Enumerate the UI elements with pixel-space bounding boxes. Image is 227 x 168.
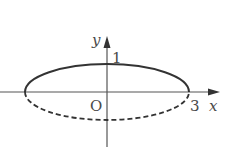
- x-axis: [0, 89, 220, 96]
- y-axis-label: y: [91, 31, 101, 49]
- y-axis-arrow-icon: [104, 36, 111, 48]
- origin-label: O: [90, 97, 102, 115]
- x-axis-label: x: [209, 97, 218, 115]
- x-tick-label: 3: [190, 97, 200, 115]
- y-tick-label: 1: [112, 49, 122, 67]
- ellipse-diagram: y 1 O 3 x: [0, 0, 227, 168]
- x-axis-arrow-icon: [208, 89, 220, 96]
